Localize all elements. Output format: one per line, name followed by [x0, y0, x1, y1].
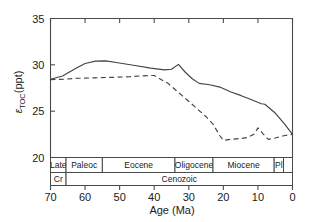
y-tick-label: 20 [32, 152, 44, 164]
epoch-label: Miocene [228, 160, 260, 170]
epoch-label: Oligocene [175, 160, 214, 170]
epoch-label: Pl [275, 160, 283, 170]
y-axis-title-subscript: TOC [18, 93, 27, 109]
x-tick-label: 60 [79, 191, 91, 203]
y-tick-label: 25 [32, 105, 44, 117]
y-axis-title-unit: (ppt) [12, 71, 24, 94]
x-axis-tick-labels: 706050403020100 [44, 191, 295, 203]
x-axis-title: Age (Ma) [149, 204, 194, 216]
epoch-label: Late [50, 160, 67, 170]
x-tick-label: 50 [114, 191, 126, 203]
y-tick-label: 30 [32, 59, 44, 71]
epoch-label: Paleoc [71, 160, 98, 170]
x-tick-label: 30 [183, 191, 195, 203]
svg-text:εTOC(ppt): εTOC(ppt) [12, 71, 27, 114]
x-tick-label: 0 [289, 191, 295, 203]
y-axis-title: εTOC(ppt) [12, 71, 27, 114]
series-dashed-curve [51, 75, 293, 140]
chart-figure: LatePaleocEoceneOligoceneMiocenePlCrCeno… [0, 0, 309, 222]
x-tick-label: 40 [148, 191, 160, 203]
epoch-cell [284, 158, 293, 173]
era-label: Cenozoic [162, 174, 198, 184]
epsilon-toc-vs-age-chart: LatePaleocEoceneOligoceneMiocenePlCrCeno… [0, 0, 309, 222]
plot-frame [51, 19, 293, 158]
y-axis-tick-labels: 20253035 [32, 13, 44, 164]
data-series [51, 61, 293, 140]
geologic-timescale: LatePaleocEoceneOligoceneMiocenePlCrCeno… [50, 158, 292, 186]
epoch-label: Eocene [124, 160, 153, 170]
x-tick-label: 20 [217, 191, 229, 203]
x-tick-label: 70 [44, 191, 56, 203]
series-solid-curve [51, 61, 293, 134]
x-tick-label: 10 [252, 191, 264, 203]
era-label: Cr [54, 174, 63, 184]
y-tick-label: 35 [32, 13, 44, 25]
y-axis-ticks [51, 19, 56, 158]
